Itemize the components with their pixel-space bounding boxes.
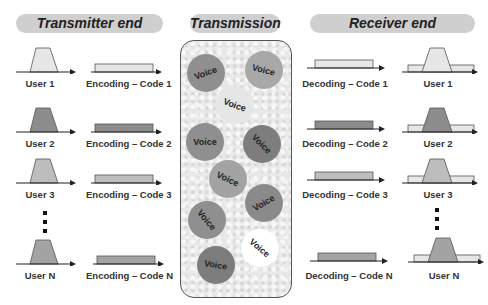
decoding-code-label: Decoding – Code 3 (302, 189, 388, 200)
voice-packet: Voice (209, 160, 247, 198)
voice-packet: Voice (197, 246, 235, 284)
voice-packet: Voice (187, 54, 225, 92)
encoding-code-3-signal-icon (90, 171, 162, 185)
transmitter-user-label: User N (14, 270, 66, 281)
decoding-code-1-signal-icon (305, 56, 385, 72)
voice-packet: Voice (188, 201, 226, 239)
transmission-channel-panel: Voice Voice Voice Voice Voice Voice Voic… (180, 40, 292, 298)
user-3-signal-trapezoid-icon (14, 155, 76, 185)
receiver-user-label: User 1 (412, 78, 464, 89)
encoding-code-2-signal-icon (90, 120, 162, 134)
decoding-code-label: Decoding – Code 1 (302, 78, 388, 89)
ellipsis-dots-icon (43, 211, 47, 238)
decoding-code-n-signal-icon (308, 249, 388, 265)
receiver-user-label: User 2 (412, 138, 464, 149)
transmitter-user-label: User 2 (14, 138, 66, 149)
voice-packet: Voice (241, 229, 279, 267)
voice-packet: Voice (245, 184, 283, 222)
voice-packet: Voice (245, 51, 283, 89)
encoding-code-label: Encoding – Code 3 (86, 189, 166, 200)
encoding-code-label: Encoding – Code 2 (86, 138, 166, 149)
user-2-signal-trapezoid-icon (14, 104, 76, 134)
receiver-user-label: User 3 (412, 189, 464, 200)
user-2-received-signal-icon (400, 104, 478, 134)
decoding-code-label: Decoding – Code N (304, 270, 394, 281)
user-n-signal-trapezoid-icon (14, 236, 76, 266)
decoding-code-2-signal-icon (305, 117, 385, 133)
user-1-received-signal-icon (400, 44, 478, 74)
receiver-end-header: Receiver end (310, 14, 475, 33)
transmitter-end-header: Transmitter end (16, 14, 163, 33)
user-1-signal-trapezoid-icon (14, 44, 76, 74)
receiver-user-label: User N (418, 270, 470, 281)
decoding-code-3-signal-icon (305, 168, 385, 184)
decoding-code-label: Decoding – Code 2 (302, 138, 388, 149)
transmitter-user-label: User 3 (14, 189, 66, 200)
transmission-header: Transmission (190, 14, 280, 33)
voice-packet: Voice (243, 125, 281, 163)
voice-packet: Voice (216, 86, 254, 124)
ellipsis-dots-icon (435, 208, 439, 235)
transmitter-user-label: User 1 (14, 78, 66, 89)
user-n-received-signal-icon (406, 234, 484, 264)
voice-packet: Voice (186, 123, 224, 161)
encoding-code-label: Encoding – Code N (86, 270, 170, 281)
encoding-code-1-signal-icon (90, 60, 162, 74)
encoding-code-label: Encoding – Code 1 (86, 78, 166, 89)
user-3-received-signal-icon (400, 155, 478, 185)
encoding-code-n-signal-icon (92, 252, 164, 266)
